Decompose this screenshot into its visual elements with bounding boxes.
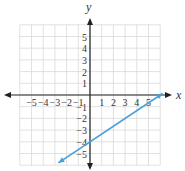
- y-tick-label: −2: [76, 113, 87, 124]
- y-tick-label: −3: [76, 125, 87, 136]
- y-tick-label: 2: [82, 67, 87, 78]
- y-tick-label: −4: [76, 137, 87, 148]
- x-axis-label: x: [175, 88, 182, 102]
- y-axis-up-arrow-icon: [87, 18, 93, 25]
- x-tick-label: 1: [99, 97, 104, 108]
- x-tick-label: −5: [26, 97, 37, 108]
- y-tick-label: 3: [82, 55, 87, 66]
- y-tick-label: 4: [82, 43, 87, 54]
- y-axis-label: y: [85, 0, 92, 14]
- x-tick-label: 3: [123, 97, 128, 108]
- x-axis-right-arrow-icon: [165, 92, 172, 98]
- coordinate-plane: −5−4−3−2−112345−5−4−3−2−112345 x y: [0, 0, 185, 171]
- x-axis-left-arrow-icon: [4, 92, 11, 98]
- x-tick-label: −3: [50, 97, 61, 108]
- y-tick-label: 1: [82, 78, 87, 89]
- y-tick-label: −1: [76, 102, 87, 113]
- x-tick-label: −4: [38, 97, 49, 108]
- axes: [4, 18, 172, 170]
- x-tick-label: 4: [134, 97, 139, 108]
- y-axis-down-arrow-icon: [87, 163, 93, 170]
- y-tick-label: 5: [82, 32, 87, 43]
- x-tick-label: 2: [111, 97, 116, 108]
- x-tick-label: −2: [61, 97, 72, 108]
